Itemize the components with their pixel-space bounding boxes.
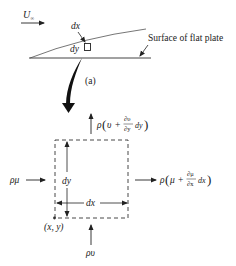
svg-text:dx: dx: [198, 176, 206, 185]
svg-text:): ): [144, 117, 148, 132]
svg-text:∂υ: ∂υ: [124, 115, 130, 122]
svg-text:∂y: ∂y: [124, 125, 131, 132]
panel-label: (a): [85, 76, 96, 87]
height-label: dy: [62, 176, 72, 186]
svg-text:υ: υ: [107, 120, 112, 130]
freestream-subscript: ∞: [31, 16, 35, 21]
svg-text:): ): [207, 172, 211, 187]
top-flux-label: ρ ( υ + ∂υ ∂y dy ): [96, 115, 148, 132]
svg-text:(: (: [102, 117, 106, 132]
svg-text:+: +: [115, 120, 120, 130]
svg-text:+: +: [178, 175, 183, 185]
right-flux-label: ρ ( μ + ∂μ ∂x dx ): [159, 170, 211, 187]
control-volume: ρ ( υ + ∂υ ∂y dy ) ρμ ρ ( μ + ∂μ ∂x dx ): [9, 114, 211, 258]
width-label: dx: [86, 198, 96, 208]
origin-point: [53, 217, 56, 220]
zoom-arrow: [62, 58, 82, 113]
flat-plate-control-volume-diagram: U ∞ dx dy Surface of flat plate (a) ρ ( …: [0, 0, 236, 266]
origin-label: (x, y): [44, 222, 64, 233]
element-dx-label: dx: [71, 21, 81, 31]
fluid-element-square: [85, 44, 91, 51]
panel-a: U ∞ dx dy Surface of flat plate (a): [21, 9, 223, 87]
svg-text:∂μ: ∂μ: [187, 170, 194, 177]
left-flux-label: ρμ: [9, 175, 20, 185]
svg-text:(: (: [165, 172, 169, 187]
surface-label: Surface of flat plate: [148, 33, 223, 43]
svg-text:∂x: ∂x: [187, 180, 194, 187]
svg-text:μ: μ: [169, 175, 175, 185]
svg-text:dy: dy: [135, 121, 143, 130]
freestream-arrow: U ∞: [21, 9, 44, 23]
bottom-flux-label: ρυ: [85, 248, 96, 258]
element-dy-label: dy: [70, 44, 80, 54]
surface-pointer-arrow: [140, 45, 148, 56]
dx-pointer-arrow: [78, 32, 85, 42]
